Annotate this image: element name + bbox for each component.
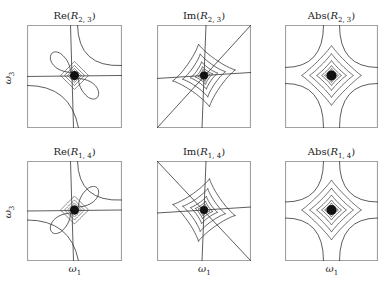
contour-plot bbox=[157, 161, 251, 261]
panel-im-r14 bbox=[157, 161, 251, 261]
contour-plot bbox=[27, 25, 122, 128]
panel-title: Im(R1, 4) bbox=[157, 146, 251, 160]
panel-title: Re(R2, 3) bbox=[27, 10, 122, 24]
y-axis-label: ω3 bbox=[2, 71, 16, 84]
x-axis-label: ω1 bbox=[326, 263, 339, 277]
panel-re-r14 bbox=[27, 161, 122, 261]
panel-title: Abs(R2, 3) bbox=[285, 10, 378, 24]
contour-plot bbox=[285, 161, 378, 261]
panel-re-r23 bbox=[27, 25, 122, 128]
x-axis-label: ω1 bbox=[69, 263, 82, 277]
contour-plot bbox=[27, 161, 122, 261]
panel-abs-r14 bbox=[285, 161, 378, 261]
panel-abs-r23 bbox=[285, 25, 378, 128]
contour-plot bbox=[285, 25, 378, 128]
contour-plot bbox=[157, 25, 251, 128]
panel-title: Re(R1, 4) bbox=[27, 146, 122, 160]
x-axis-label: ω1 bbox=[198, 263, 211, 277]
panel-title: Im(R2, 3) bbox=[157, 10, 251, 24]
y-axis-label: ω3 bbox=[2, 206, 16, 219]
panel-title: Abs(R1, 4) bbox=[285, 146, 378, 160]
panel-im-r23 bbox=[157, 25, 251, 128]
